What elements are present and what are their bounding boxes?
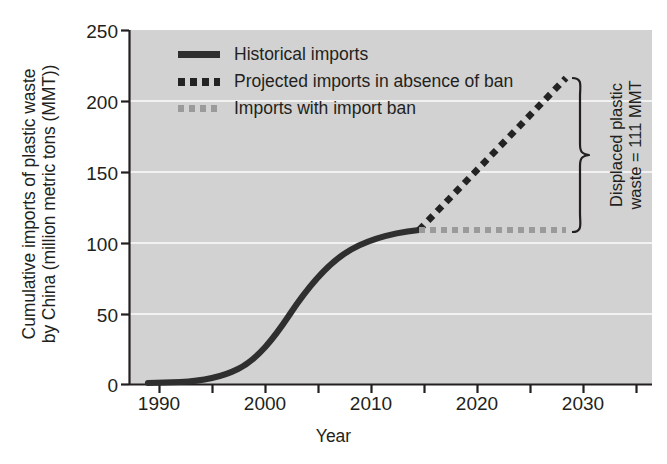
y-tick-label-100: 100 — [60, 235, 118, 254]
gridline-150 — [130, 171, 652, 173]
legend-label-imports-with-ban: Imports with import ban — [234, 98, 416, 119]
dotted-light-line-swatch-icon — [178, 105, 220, 112]
gridline-100 — [130, 242, 652, 244]
x-tick-marks — [160, 385, 637, 393]
y-tick-label-50: 50 — [60, 306, 118, 325]
x-tick-label-2020: 2020 — [456, 394, 498, 413]
annotation-line-1: Displaced plastic — [607, 83, 626, 207]
x-tick-label-2000: 2000 — [244, 394, 286, 413]
y-axis-title-line-2: by China (million metric tons (MMT)) — [40, 65, 60, 343]
y-axis-title: Cumulative imports of plastic waste by C… — [16, 9, 64, 399]
dotted-dark-line-swatch-icon — [178, 78, 220, 86]
y-tick-marks — [121, 31, 129, 385]
x-tick-label-2010: 2010 — [350, 394, 392, 413]
legend-item-projected-imports: Projected imports in absence of ban — [178, 68, 518, 95]
legend-item-imports-with-ban: Imports with import ban — [178, 95, 518, 122]
x-tick-label-2030: 2030 — [562, 394, 604, 413]
y-tick-label-250: 250 — [60, 22, 118, 41]
chart-figure: Historical imports Projected imports in … — [0, 0, 667, 464]
x-tick-label-1990: 1990 — [138, 394, 180, 413]
y-tick-label-150: 150 — [60, 164, 118, 183]
x-tick-labels: 1990 2000 2010 2020 2030 — [0, 394, 667, 420]
displaced-waste-annotation: Displaced plastic waste = 111 MMT — [598, 60, 654, 260]
y-tick-label-0: 0 — [60, 376, 118, 395]
chart-legend: Historical imports Projected imports in … — [178, 41, 518, 122]
y-tick-label-200: 200 — [60, 93, 118, 112]
gridline-50 — [130, 313, 652, 315]
legend-item-historical-imports: Historical imports — [178, 41, 518, 68]
legend-label-historical-imports: Historical imports — [234, 44, 368, 65]
x-axis-title: Year — [0, 426, 667, 447]
y-axis-title-line-1: Cumulative imports of plastic waste — [20, 69, 40, 340]
legend-label-projected-imports: Projected imports in absence of ban — [234, 71, 513, 92]
solid-dark-line-swatch-icon — [178, 51, 220, 58]
annotation-line-2: waste = 111 MMT — [626, 80, 645, 209]
